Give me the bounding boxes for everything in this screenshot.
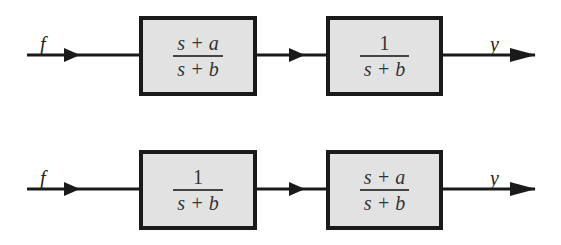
transfer-function: 1 s + b [360,33,409,80]
row-2-block-1: 1 s + b [139,150,257,230]
transfer-function: s + a s + b [360,167,409,214]
fraction-bar [173,189,222,191]
row-1-output-label: y [490,34,499,54]
fraction-bar [360,189,409,191]
numerator: s + a [360,167,409,188]
row-1-output-arrow-icon [510,48,536,62]
row-2-input-arrow-icon [64,182,80,196]
numerator: s + a [173,33,222,54]
denominator: s + b [173,59,222,80]
transfer-function: s + a s + b [173,33,222,80]
row-2-input-label: f [40,168,46,188]
row-2-block-2: s + a s + b [326,150,443,230]
row-1-block-2: 1 s + b [326,16,443,96]
row-1-wires [27,48,536,62]
row-2-output-label: y [490,168,499,188]
row-1-input-arrow-icon [64,48,80,62]
row-2-wires [27,182,536,196]
denominator: s + b [360,59,409,80]
transfer-function: 1 s + b [173,167,222,214]
numerator: 1 [189,167,207,188]
numerator: 1 [376,33,394,54]
fraction-bar [173,55,222,57]
row-2-output-arrow-icon [510,182,536,196]
row-1-input-label: f [40,34,46,54]
denominator: s + b [360,193,409,214]
block-diagram: f y s + a s + b 1 s + b f y 1 s + b s + … [0,0,561,245]
row-1-block-1: s + a s + b [139,16,257,96]
row-2-mid-arrow-icon [289,182,305,196]
denominator: s + b [173,193,222,214]
row-1-mid-arrow-icon [289,48,305,62]
signal-wires [0,0,561,245]
fraction-bar [360,55,409,57]
